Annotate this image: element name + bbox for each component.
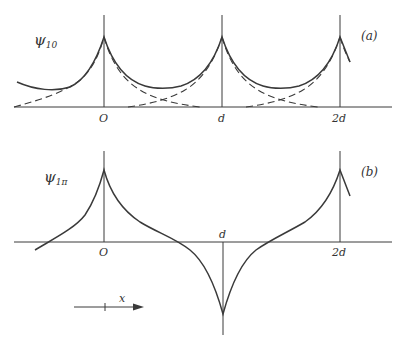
arrow-head-icon bbox=[133, 304, 144, 311]
panel-a: ψ10 O d 2d (a) bbox=[14, 15, 392, 125]
panel-b: ψ1π O d 2d (b) bbox=[14, 151, 392, 335]
diagram: ψ10 O d 2d (a) ψ1π O d 2d (b) x bbox=[0, 0, 412, 343]
panel-tag-a: (a) bbox=[361, 29, 378, 43]
tick-label-d-a: d bbox=[218, 112, 225, 125]
tick-label-d-b: d bbox=[219, 228, 226, 241]
tick-label-2d-b: 2d bbox=[331, 246, 346, 259]
ylabel-a: ψ10 bbox=[34, 31, 57, 50]
atomic-contributions-a bbox=[14, 37, 350, 107]
x-direction-arrow: x bbox=[74, 292, 144, 311]
tick-label-o-a: O bbox=[99, 112, 108, 125]
ylabel-b: ψ1π bbox=[44, 168, 68, 187]
tick-label-o-b: O bbox=[99, 246, 108, 259]
wavefunction-curve-a bbox=[17, 37, 350, 90]
tick-label-2d-a: 2d bbox=[331, 112, 346, 125]
panel-tag-b: (b) bbox=[361, 165, 378, 179]
arrow-label-x: x bbox=[119, 292, 126, 305]
